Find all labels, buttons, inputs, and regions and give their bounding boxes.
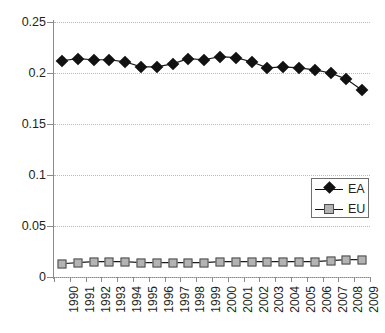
- y-axis-tick-mark: [47, 277, 54, 278]
- y-axis-tick-label: 0.2: [29, 66, 46, 80]
- x-axis-tick-label: 1994: [130, 286, 144, 313]
- x-axis-tick-mark: [338, 277, 339, 282]
- y-axis-tick-mark: [47, 124, 54, 125]
- x-axis-tick-label: 1991: [83, 286, 97, 313]
- data-point-eu: [105, 257, 114, 266]
- x-axis-tick-label: 1993: [114, 286, 128, 313]
- x-axis-tick-mark: [180, 277, 181, 282]
- x-axis-tick-mark: [212, 277, 213, 282]
- x-axis-tick-mark: [54, 277, 55, 282]
- data-point-eu: [310, 257, 319, 266]
- data-point-eu: [136, 258, 145, 267]
- y-axis-tick-mark: [47, 175, 54, 176]
- x-axis-tick-mark: [307, 277, 308, 282]
- data-point-eu: [57, 259, 66, 268]
- y-axis-tick-label: 0.15: [22, 117, 46, 131]
- x-axis-tick-mark: [196, 277, 197, 282]
- data-point-eu: [326, 256, 335, 265]
- x-axis-tick-label: 2008: [351, 286, 365, 313]
- data-point-eu: [215, 257, 224, 266]
- x-axis-tick-label: 2006: [320, 286, 334, 313]
- data-point-eu: [121, 257, 130, 266]
- x-axis-tick-mark: [259, 277, 260, 282]
- x-axis-tick-label: 1996: [162, 286, 176, 313]
- legend-item-eu: EU: [312, 199, 368, 219]
- x-axis-tick-mark: [228, 277, 229, 282]
- data-point-eu: [168, 258, 177, 267]
- data-point-eu: [294, 257, 303, 266]
- data-point-eu: [342, 255, 351, 264]
- chart-container: 00.050.10.150.20.25 19901991199219931994…: [0, 0, 385, 333]
- gridline: [54, 226, 370, 227]
- x-axis-tick-label: 1990: [67, 286, 81, 313]
- x-axis-tick-label: 2007: [336, 286, 350, 313]
- square-marker-icon: [324, 204, 334, 214]
- x-axis-tick-label: 1992: [99, 286, 113, 313]
- data-point-eu: [247, 257, 256, 266]
- data-point-eu: [358, 255, 367, 264]
- diamond-marker-icon: [323, 181, 336, 194]
- x-axis-tick-label: 1995: [146, 286, 160, 313]
- gridline: [54, 175, 370, 176]
- data-point-eu: [231, 257, 240, 266]
- plot-area: [54, 22, 370, 277]
- y-axis-tick-label: 0.05: [22, 219, 46, 233]
- x-axis-tick-label: 2001: [241, 286, 255, 313]
- x-axis-tick-label: 1999: [209, 286, 223, 313]
- x-axis-tick-label: 2009: [367, 286, 381, 313]
- y-axis-labels: 00.050.10.150.20.25: [0, 0, 46, 333]
- x-axis-tick-label: 2004: [288, 286, 302, 313]
- x-axis-tick-mark: [370, 277, 371, 282]
- gridline: [54, 22, 370, 23]
- x-axis-tick-mark: [354, 277, 355, 282]
- x-axis-tick-label: 1998: [193, 286, 207, 313]
- x-axis-tick-mark: [117, 277, 118, 282]
- y-axis-tick-mark: [47, 73, 54, 74]
- x-axis-tick-mark: [133, 277, 134, 282]
- x-axis-tick-label: 2000: [225, 286, 239, 313]
- data-point-eu: [200, 258, 209, 267]
- y-axis-tick-mark: [47, 22, 54, 23]
- x-axis-tick-mark: [244, 277, 245, 282]
- y-axis-tick-label: 0.25: [22, 15, 46, 29]
- legend-item-ea: EA: [312, 179, 368, 199]
- x-axis-tick-mark: [165, 277, 166, 282]
- data-point-eu: [152, 258, 161, 267]
- x-axis-tick-mark: [291, 277, 292, 282]
- y-axis-tick-mark: [47, 226, 54, 227]
- gridline: [54, 124, 370, 125]
- x-axis-tick-label: 2003: [272, 286, 286, 313]
- x-axis-tick-mark: [323, 277, 324, 282]
- legend-label-eu: EU: [348, 202, 365, 216]
- gridline: [54, 73, 370, 74]
- x-axis-tick-mark: [149, 277, 150, 282]
- x-axis-tick-mark: [275, 277, 276, 282]
- x-axis-tick-mark: [101, 277, 102, 282]
- x-axis-tick-mark: [86, 277, 87, 282]
- data-point-eu: [73, 258, 82, 267]
- legend-label-ea: EA: [348, 182, 365, 196]
- data-point-eu: [89, 257, 98, 266]
- chart-legend: EA EU: [311, 178, 369, 218]
- y-axis-tick-label: 0: [39, 270, 46, 284]
- y-axis-tick-label: 0.1: [29, 168, 46, 182]
- data-point-eu: [263, 257, 272, 266]
- x-axis-tick-label: 2002: [257, 286, 271, 313]
- x-axis-tick-label: 2005: [304, 286, 318, 313]
- data-point-eu: [184, 258, 193, 267]
- x-axis-tick-mark: [70, 277, 71, 282]
- data-point-eu: [279, 257, 288, 266]
- x-axis-tick-label: 1997: [178, 286, 192, 313]
